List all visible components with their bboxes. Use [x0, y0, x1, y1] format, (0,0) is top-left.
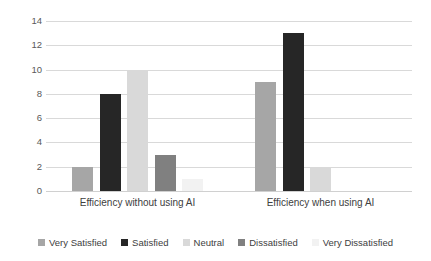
legend-item[interactable]: Dissatisfied — [238, 237, 298, 248]
x-category-label: Efficiency when using AI — [229, 196, 412, 210]
legend-label: Very Dissatisfied — [323, 237, 393, 248]
y-axis: 02468101214 — [0, 21, 42, 191]
legend-swatch-icon — [38, 239, 45, 246]
legend-swatch-icon — [312, 239, 319, 246]
y-tick-label: 10 — [4, 65, 42, 75]
y-tick-label: 2 — [4, 162, 42, 172]
y-tick-label: 12 — [4, 40, 42, 50]
plot-area — [46, 21, 412, 191]
y-tick-label: 4 — [4, 137, 42, 147]
legend-item[interactable]: Very Satisfied — [38, 237, 107, 248]
legend-swatch-icon — [238, 239, 245, 246]
legend-label: Very Satisfied — [49, 237, 107, 248]
legend-label: Satisfied — [132, 237, 168, 248]
bar — [255, 82, 276, 191]
legend-label: Neutral — [194, 237, 225, 248]
y-tick-label: 8 — [4, 89, 42, 99]
bar — [155, 155, 176, 191]
bar — [310, 167, 331, 191]
y-tick-label: 6 — [4, 113, 42, 123]
y-tick-label: 14 — [4, 16, 42, 26]
bar-chart: 02468101214 Efficiency without using AIE… — [0, 0, 431, 261]
gridline-12 — [46, 45, 412, 46]
y-tick-label: 0 — [4, 186, 42, 196]
legend-label: Dissatisfied — [249, 237, 298, 248]
bar — [283, 33, 304, 191]
legend-item[interactable]: Very Dissatisfied — [312, 237, 393, 248]
gridline-14 — [46, 21, 412, 22]
legend-item[interactable]: Satisfied — [121, 237, 168, 248]
legend-swatch-icon — [183, 239, 190, 246]
chart-legend: Very SatisfiedSatisfiedNeutralDissatisfi… — [0, 232, 431, 252]
legend-swatch-icon — [121, 239, 128, 246]
x-axis: Efficiency without using AIEfficiency wh… — [46, 196, 412, 218]
bar — [100, 94, 121, 191]
legend-item[interactable]: Neutral — [183, 237, 225, 248]
bar — [127, 70, 148, 191]
x-category-label: Efficiency without using AI — [46, 196, 229, 210]
gridline-10 — [46, 70, 412, 71]
bar — [182, 179, 203, 191]
gridline-0 — [46, 191, 412, 192]
bar — [72, 167, 93, 191]
